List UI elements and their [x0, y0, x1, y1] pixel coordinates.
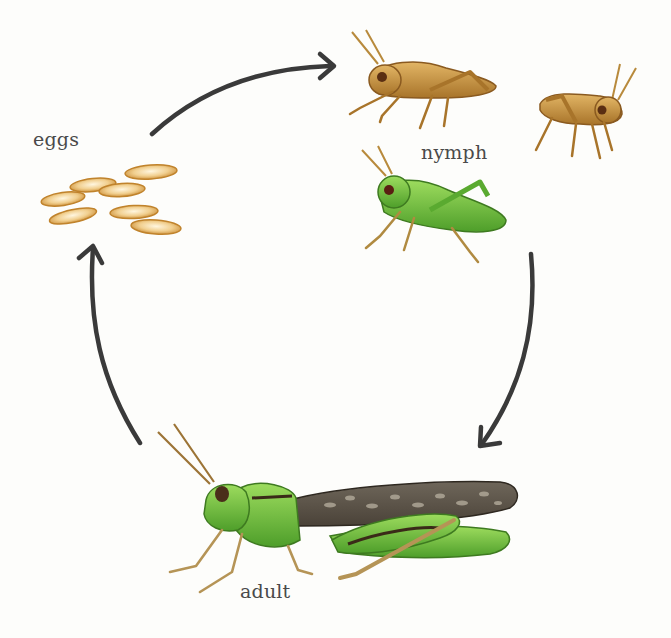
adult-illustration — [158, 424, 517, 592]
life-cycle-diagram: eggs nymph adult — [0, 0, 671, 638]
arrow-eggs-to-nymph — [152, 54, 334, 134]
stage-label-eggs: eggs — [33, 128, 79, 150]
eggs-illustration — [40, 163, 181, 236]
stage-label-adult: adult — [240, 580, 290, 602]
nymph-brown-large-illustration — [350, 30, 496, 128]
arrow-nymph-to-adult — [480, 254, 532, 446]
arrow-adult-to-eggs — [79, 246, 140, 443]
diagram-canvas — [0, 0, 671, 638]
nymph-green-illustration — [362, 146, 506, 262]
stage-label-nymph: nymph — [421, 141, 487, 163]
nymph-brown-small-illustration — [536, 64, 636, 158]
